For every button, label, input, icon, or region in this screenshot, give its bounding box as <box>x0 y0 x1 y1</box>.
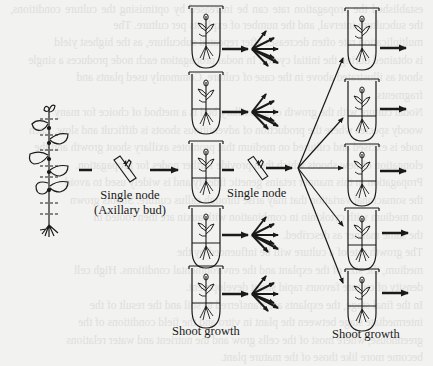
bleed-line: become more like those of the mature pla… <box>10 350 423 366</box>
culture-tube-icon <box>189 72 223 134</box>
single-node-explant-icon <box>114 156 136 182</box>
single-node-subculture-icon <box>248 156 268 179</box>
label-shoot-growth-left: Shoot growth <box>172 324 240 339</box>
shoot-burst-icon <box>252 276 278 311</box>
culture-tube-icon <box>345 79 379 141</box>
culture-tube-icon <box>189 141 223 203</box>
culture-tube-icon <box>345 144 379 206</box>
label-shoot-growth-right: Shoot growth <box>332 327 400 342</box>
culture-tube-icon <box>189 6 223 68</box>
label-line: (Axillary bud) <box>94 203 166 218</box>
fan-out-arrows <box>298 58 343 283</box>
label-line: Single node <box>94 188 166 203</box>
label-single-node-middle: Single node <box>227 186 286 201</box>
label-single-node-axillary: Single node (Axillary bud) <box>94 188 166 218</box>
culture-tube-icon <box>345 269 379 331</box>
mother-plant-icon <box>30 105 69 237</box>
culture-tube-icon <box>189 266 223 328</box>
culture-tube-icon <box>345 8 379 70</box>
culture-tube-icon <box>189 206 223 268</box>
culture-tube-icon <box>345 208 379 270</box>
shoot-burst-icon <box>252 217 278 252</box>
shoot-burst-icon <box>252 94 278 129</box>
shoot-burst-icon <box>252 31 278 66</box>
